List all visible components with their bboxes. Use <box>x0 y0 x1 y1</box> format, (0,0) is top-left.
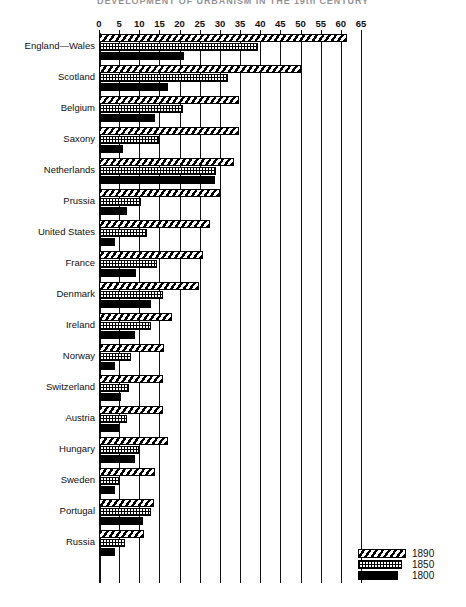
bar-1890 <box>99 127 239 135</box>
bar-1850 <box>99 136 159 144</box>
chart-row: Portugal <box>99 498 361 529</box>
bar-1890 <box>99 313 172 321</box>
bar-1890 <box>99 220 210 228</box>
chart-row: Scotland <box>99 64 361 95</box>
bar-1800 <box>99 393 121 401</box>
page-title: DEVELOPMENT OF URBANISM IN THE 19th CENT… <box>0 0 466 6</box>
category-label: Switzerland <box>0 381 95 392</box>
bar-1890 <box>99 499 154 507</box>
legend-label-1850: 1850 <box>412 559 434 570</box>
category-label: Scotland <box>0 71 95 82</box>
category-label: Russia <box>0 536 95 547</box>
legend-item-1800: 1800 <box>358 571 466 580</box>
bar-1890 <box>99 468 155 476</box>
category-label: Portugal <box>0 505 95 516</box>
bar-1890 <box>99 158 234 166</box>
gridline <box>361 33 362 583</box>
chart-plot-area: 05101520253035404550556065 England—Wales… <box>99 33 361 583</box>
category-label: Norway <box>0 350 95 361</box>
x-axis-tick-label: 0 <box>96 18 101 29</box>
bar-1890 <box>99 65 301 73</box>
chart-row: Sweden <box>99 467 361 498</box>
bar-1800 <box>99 176 215 184</box>
x-axis-tick-label: 35 <box>235 18 246 29</box>
legend-label-1800: 1800 <box>412 570 434 581</box>
bar-1850 <box>99 167 216 175</box>
bar-1850 <box>99 74 228 82</box>
x-axis-tick-label: 10 <box>134 18 145 29</box>
x-axis-tick-label: 5 <box>116 18 121 29</box>
bar-1800 <box>99 114 155 122</box>
bar-1800 <box>99 83 168 91</box>
bar-1890 <box>99 530 144 538</box>
chart-row: Russia <box>99 529 361 560</box>
x-axis-tick-label: 65 <box>356 18 367 29</box>
x-axis-tick-label: 50 <box>295 18 306 29</box>
bar-1850 <box>99 508 151 516</box>
bar-1800 <box>99 424 119 432</box>
bar-1850 <box>99 229 147 237</box>
bar-1850 <box>99 43 258 51</box>
chart-row: Ireland <box>99 312 361 343</box>
category-label: United States <box>0 226 95 237</box>
chart-row: Hungary <box>99 436 361 467</box>
x-axis-tick-label: 40 <box>255 18 266 29</box>
bar-1800 <box>99 145 123 153</box>
bar-1890 <box>99 251 203 259</box>
bar-1850 <box>99 353 131 361</box>
bar-1800 <box>99 486 115 494</box>
chart-row: Austria <box>99 405 361 436</box>
x-axis-tick-label: 25 <box>194 18 205 29</box>
bar-1800 <box>99 269 136 277</box>
chart-legend: 1890 1850 1800 <box>358 549 466 589</box>
chart-row: Norway <box>99 343 361 374</box>
category-label: Hungary <box>0 443 95 454</box>
bar-1890 <box>99 189 220 197</box>
bar-1800 <box>99 52 184 60</box>
chart-row: United States <box>99 219 361 250</box>
bar-1850 <box>99 105 183 113</box>
legend-swatch-1850 <box>358 560 402 569</box>
x-axis-tick-label: 15 <box>154 18 165 29</box>
x-axis-tick-label: 30 <box>215 18 226 29</box>
bar-1800 <box>99 207 127 215</box>
category-label: England—Wales <box>0 40 95 51</box>
chart-row: Denmark <box>99 281 361 312</box>
bar-1850 <box>99 477 119 485</box>
x-axis-tick-label: 55 <box>315 18 326 29</box>
bar-1890 <box>99 437 168 445</box>
bar-1890 <box>99 282 199 290</box>
category-label: Ireland <box>0 319 95 330</box>
chart-row: Belgium <box>99 95 361 126</box>
x-axis-tick-label: 45 <box>275 18 286 29</box>
chart-row: Saxony <box>99 126 361 157</box>
bar-1890 <box>99 34 347 42</box>
x-axis-tick-label: 60 <box>336 18 347 29</box>
category-label: Denmark <box>0 288 95 299</box>
bar-1800 <box>99 300 151 308</box>
category-label: Saxony <box>0 133 95 144</box>
bar-1850 <box>99 291 163 299</box>
bar-1890 <box>99 344 164 352</box>
chart-row: England—Wales <box>99 33 361 64</box>
legend-item-1850: 1850 <box>358 560 466 569</box>
category-label: France <box>0 257 95 268</box>
bar-1800 <box>99 238 115 246</box>
category-label: Austria <box>0 412 95 423</box>
bar-1850 <box>99 260 157 268</box>
legend-swatch-1800 <box>358 571 398 580</box>
bar-1890 <box>99 96 239 104</box>
bar-1850 <box>99 539 125 547</box>
bar-1890 <box>99 375 163 383</box>
chart-row: Netherlands <box>99 157 361 188</box>
legend-swatch-1890 <box>358 549 406 558</box>
legend-label-1890: 1890 <box>412 548 434 559</box>
chart-row: Prussia <box>99 188 361 219</box>
category-label: Prussia <box>0 195 95 206</box>
chart-row: Switzerland <box>99 374 361 405</box>
x-axis-labels: 05101520253035404550556065 <box>99 18 361 30</box>
bar-1890 <box>99 406 163 414</box>
bar-1800 <box>99 517 143 525</box>
bar-1800 <box>99 548 115 556</box>
category-label: Netherlands <box>0 164 95 175</box>
